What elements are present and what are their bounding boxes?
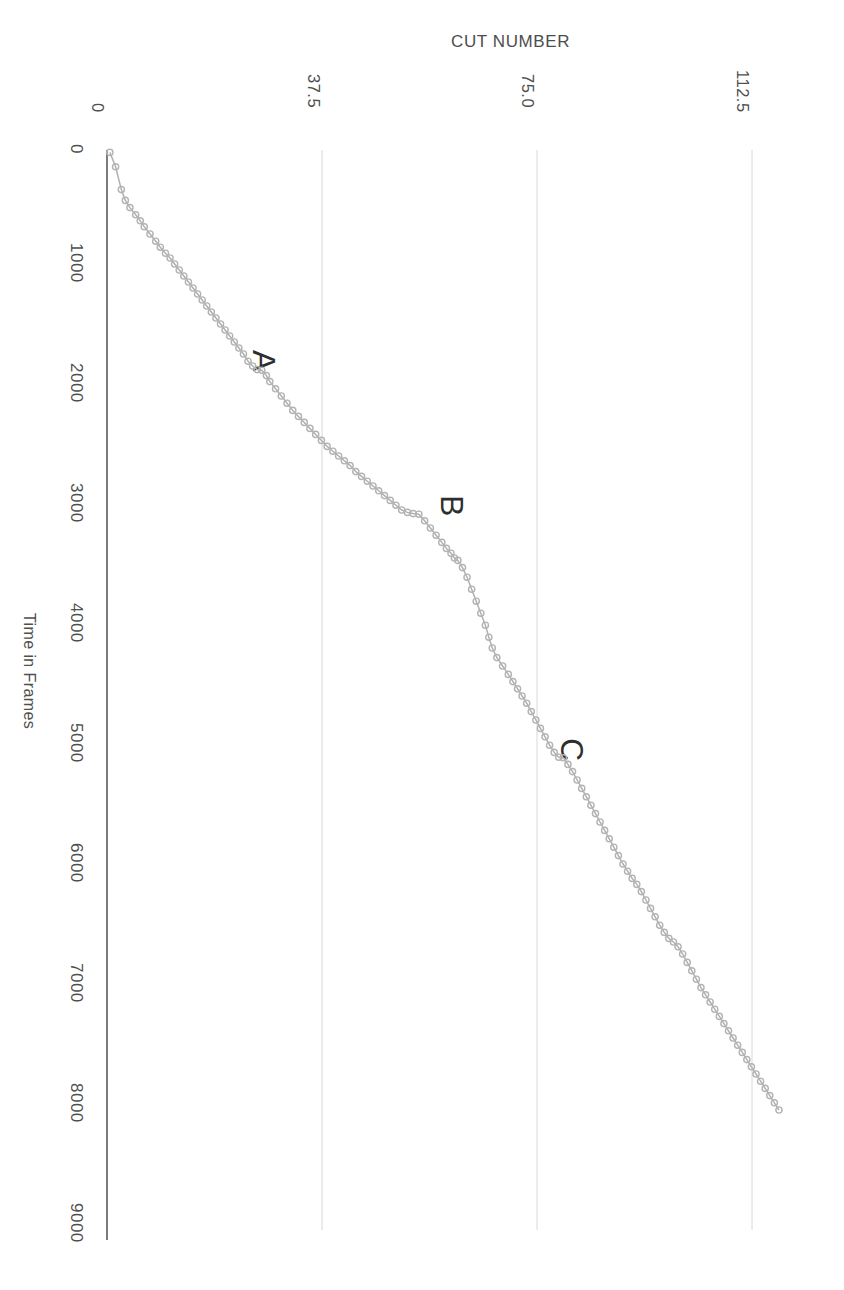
gridlines-group	[322, 150, 752, 1230]
plot-canvas	[0, 0, 844, 1290]
data-line	[110, 152, 779, 1110]
data-markers-group	[107, 149, 782, 1113]
chart-figure: CUT NUMBER 0 37.5 75.0 112.5 0 1000 2000…	[0, 0, 844, 1290]
data-point-marker	[776, 1107, 782, 1113]
